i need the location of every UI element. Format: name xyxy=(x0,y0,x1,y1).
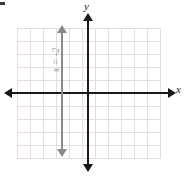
x-axis-label: x xyxy=(176,84,181,95)
y-axis-arrow-down-icon xyxy=(83,164,93,172)
corner-artifact-mark xyxy=(0,2,5,5)
plotted-line-equation-label: x = -2 xyxy=(51,40,61,80)
coordinate-plane-figure: x y x = -2 xyxy=(0,0,187,176)
x-axis-line xyxy=(8,92,172,94)
x-axis-arrow-right-icon xyxy=(168,88,176,98)
plotted-line-vertical xyxy=(61,32,63,150)
y-axis-label: y xyxy=(84,1,89,12)
y-axis-line xyxy=(87,18,89,170)
y-axis-arrow-up-icon xyxy=(83,13,93,21)
plotted-line-arrow-down-icon xyxy=(57,149,67,157)
plotted-line-arrow-up-icon xyxy=(57,25,67,33)
x-axis-arrow-left-icon xyxy=(4,88,12,98)
